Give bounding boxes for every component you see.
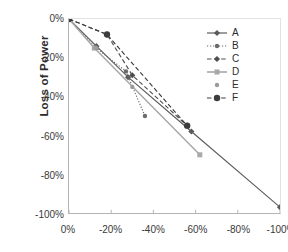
x-tick-label: 0% [45,224,91,235]
legend-item-A[interactable]: A [205,28,277,38]
data-point-square-marker [197,152,202,157]
data-point-diamond-marker [214,30,220,36]
legend-marker-B [205,41,229,51]
x-tick-label: -20% [88,224,134,235]
data-point-circle-large-marker [214,95,220,101]
legend-marker-D [205,67,229,77]
legend-item-F[interactable]: F [205,93,277,103]
legend-item-E[interactable]: E [205,80,277,90]
legend-item-C[interactable]: C [205,54,277,64]
chart-legend: ABCDEF [205,28,277,103]
legend-marker-E [205,80,229,90]
data-point-circle-marker [130,85,134,89]
data-point-circle-marker [215,83,219,87]
data-point-circle-marker [94,46,98,50]
legend-marker-A [205,28,229,38]
legend-item-D[interactable]: D [205,67,277,77]
legend-label-C: C [229,54,239,64]
x-tick-label: -80% [215,224,261,235]
data-point-circle-large-marker [104,31,110,37]
chart-container: Loss of Power 0%-20%-40%-60%-80%-100% 0%… [0,0,288,252]
series-D [69,19,202,157]
legend-label-B: B [229,41,239,51]
data-point-circle-marker [143,114,147,118]
legend-label-D: D [229,67,239,77]
legend-item-B[interactable]: B [205,41,277,51]
x-tick-label: -100% [258,224,288,235]
series-C [69,19,190,129]
legend-label-E: E [229,80,239,90]
data-point-circle-large-marker [184,123,190,129]
legend-marker-C [205,54,229,64]
x-tick-label: -60% [173,224,219,235]
legend-label-F: F [229,93,238,103]
data-point-circle-marker [124,69,128,73]
legend-marker-F [205,93,229,103]
data-point-square-marker [215,70,220,75]
legend-label-A: A [229,28,239,38]
data-point-diamond-marker [214,56,220,62]
x-tick-label: -40% [130,224,176,235]
data-point-circle-marker [215,44,219,48]
series-line-C [69,19,187,126]
series-line-F [69,19,187,126]
